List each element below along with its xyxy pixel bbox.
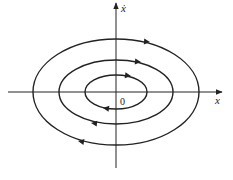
arrow-icon bbox=[125, 72, 132, 79]
y-axis-label: ẋ bbox=[120, 2, 126, 14]
x-axis-label: x bbox=[214, 94, 220, 106]
phase-portrait: x ẋ 0 bbox=[0, 0, 233, 180]
arrow-icon bbox=[135, 58, 142, 65]
origin-label: 0 bbox=[120, 96, 125, 107]
arrow-icon bbox=[103, 105, 110, 112]
arrow-icon bbox=[144, 39, 150, 45]
